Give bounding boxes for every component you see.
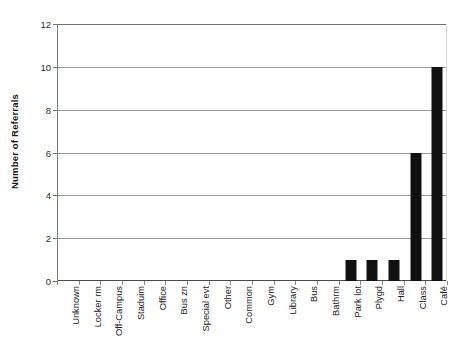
bar [432, 67, 443, 281]
bar [410, 153, 421, 282]
x-axis-tick [252, 281, 253, 285]
y-axis-tick-labels: 024681012 [0, 24, 57, 281]
gridline [58, 67, 446, 68]
x-axis-tick [230, 281, 231, 285]
x-axis-tick-label: Common [245, 286, 254, 324]
bar [345, 260, 356, 281]
x-axis-tick [404, 281, 405, 285]
gridline [58, 195, 446, 196]
y-axis-tick-label: 8 [46, 104, 51, 115]
x-axis-tick-label: Park lot [354, 286, 363, 318]
x-axis-tick-label: Locker rm [94, 286, 103, 327]
y-axis-tick-label: 10 [40, 61, 51, 72]
x-axis-tick-label: Class [419, 286, 428, 309]
x-axis-tick-label: Office [159, 286, 168, 310]
gridline [58, 24, 446, 25]
x-axis-tick [100, 281, 101, 285]
x-axis-tick [425, 281, 426, 285]
x-axis-tick-label: Plygd [375, 286, 384, 309]
y-axis-tick-label: 6 [46, 147, 51, 158]
x-axis-tick-label: Gym [267, 286, 276, 306]
x-axis-tick [144, 281, 145, 285]
x-axis-tick-label: Bus [310, 286, 319, 302]
x-axis-tick-label: Bathrm [332, 286, 341, 316]
bar-chart-figure: Number of Referrals 024681012 UnknownLoc… [0, 0, 470, 356]
x-axis-tick [274, 281, 275, 285]
x-axis-tick-label: Library [289, 286, 298, 314]
x-axis-tick [295, 281, 296, 285]
x-axis-tick [317, 281, 318, 285]
gridline [58, 110, 446, 111]
bar [367, 260, 378, 281]
x-axis-tick-label: Special evt [202, 286, 211, 331]
y-axis-tick-label: 0 [46, 276, 51, 287]
x-axis-tick [447, 281, 448, 285]
x-axis-tick [209, 281, 210, 285]
x-axis-tick-label: Hall [397, 286, 406, 302]
x-axis-tick-label: Staduim [137, 286, 146, 320]
x-axis-tick-label: Unknown [72, 286, 81, 325]
x-axis-tick [360, 281, 361, 285]
x-axis-tick [57, 281, 58, 285]
plot-area [57, 24, 447, 281]
gridline [58, 238, 446, 239]
x-axis-tick [79, 281, 80, 285]
x-axis-tick [187, 281, 188, 285]
x-axis-tick [339, 281, 340, 285]
x-axis-tick-labels: UnknownLocker rmOff-CampusStaduimOfficeB… [57, 286, 447, 354]
x-axis-tick-label: Bus zn [180, 286, 189, 314]
y-axis-tick-label: 4 [46, 190, 51, 201]
gridline [58, 153, 446, 154]
y-axis-tick-label: 2 [46, 233, 51, 244]
x-axis-tick-label: Café [440, 286, 449, 306]
x-axis-tick-label: Other [224, 286, 233, 309]
bar [388, 260, 399, 281]
x-axis-tick-label: Off-Campus [115, 286, 124, 336]
x-axis-tick [122, 281, 123, 285]
x-axis-tick [382, 281, 383, 285]
y-axis-tick-label: 12 [40, 19, 51, 30]
x-axis-tick [165, 281, 166, 285]
